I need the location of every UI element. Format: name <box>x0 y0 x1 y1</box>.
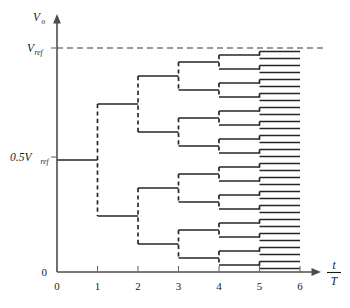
x-tick-label-1: 1 <box>95 280 101 292</box>
signal-trace-group <box>57 52 300 269</box>
x-tick-label-2: 2 <box>135 280 141 292</box>
y-axis-name-subscript: o <box>42 17 46 26</box>
x-tick-label-3: 3 <box>176 280 182 292</box>
x-tick-label-0: 0 <box>54 280 60 292</box>
x-axis-arrowhead <box>312 268 322 276</box>
successive-approximation-figure: 0 1 2 3 4 5 6 V o V ref 0.5V ref 0 t T <box>0 0 350 308</box>
x-axis-tick-labels: 0 1 2 3 4 5 6 <box>54 280 303 292</box>
x-axis-name-fraction: t T <box>327 259 341 287</box>
y-label-half-vref: 0.5V <box>10 151 33 163</box>
y-axis-arrowhead <box>53 14 61 24</box>
x-axis-denominator: T <box>331 275 339 287</box>
y-axis-labels: V o V ref 0.5V ref 0 <box>10 11 49 278</box>
x-tick-label-5: 5 <box>257 280 263 292</box>
plot-canvas: 0 1 2 3 4 5 6 V o V ref 0.5V ref 0 t T <box>0 0 350 308</box>
axes-group <box>51 14 321 276</box>
y-label-vref-subscript: ref <box>35 48 44 57</box>
signal-trace <box>57 52 300 269</box>
y-label-zero: 0 <box>42 266 48 278</box>
x-axis-numerator: t <box>332 259 336 271</box>
x-tick-label-4: 4 <box>216 280 222 292</box>
y-label-half-vref-subscript: ref <box>41 157 50 166</box>
x-tick-label-6: 6 <box>297 280 303 292</box>
